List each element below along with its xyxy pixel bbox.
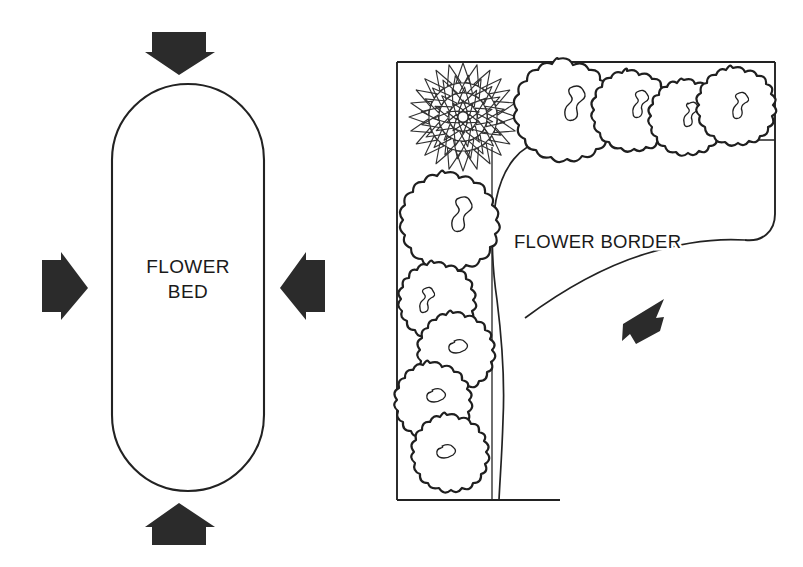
garden-diagram-svg: FLOWER BED: [0, 0, 803, 567]
figure-canvas: FLOWER BED: [0, 0, 803, 567]
flower-bed-label-line-2: BED: [168, 281, 208, 302]
shrub-symbol-9: [411, 413, 489, 493]
flower-border-label: FLOWER BORDER: [514, 231, 681, 252]
flower-bed-label-line-1: FLOWER: [146, 256, 230, 277]
shrub-symbol-4: [696, 66, 776, 146]
